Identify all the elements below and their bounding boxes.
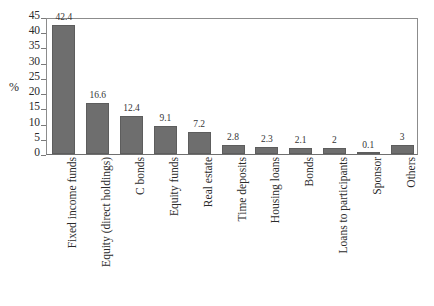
y-axis-tick-label: 30 <box>29 56 40 68</box>
x-axis-label: Sponsor <box>372 157 384 195</box>
bar <box>357 152 380 154</box>
plot-area: 42.416.612.49.17.22.82.32.120.13 <box>47 19 417 154</box>
bar-value-label: 2.8 <box>227 133 239 143</box>
x-axis-label-text: Equity (direct holdings) <box>101 157 113 267</box>
bar <box>255 147 278 154</box>
bar-group: 16.6 <box>86 17 109 154</box>
bar-value-label: 9.1 <box>159 114 171 124</box>
x-axis-label-text: C bonds <box>135 157 147 195</box>
x-axis-label: Fixed income funds <box>67 157 79 248</box>
x-axis-label-text: Sponsor <box>372 157 384 195</box>
y-axis-tick-label: 20 <box>29 86 40 98</box>
bar-value-label: 2 <box>332 136 337 146</box>
x-axis-label-text: Others <box>406 157 418 188</box>
x-axis-label: Bonds <box>304 157 316 186</box>
bar-value-label: 2.3 <box>261 135 273 145</box>
bar-group: 42.4 <box>52 17 75 154</box>
bar-group: 3 <box>391 17 414 154</box>
bar-value-label: 7.2 <box>193 120 205 130</box>
bar-group: 0.1 <box>357 17 380 154</box>
bar-value-label: 16.6 <box>89 91 106 101</box>
x-axis-label: Loans to participants <box>338 157 350 253</box>
y-axis-tick-label: 25 <box>29 71 40 83</box>
y-axis: 454035302520151050 <box>0 18 46 155</box>
x-axis-label-text: Loans to participants <box>338 157 350 253</box>
bar-value-label: 42.4 <box>56 13 73 23</box>
bar-group: 2 <box>323 17 346 154</box>
bar-value-label: 0.1 <box>362 141 374 151</box>
x-axis-category-labels: Fixed income fundsEquity (direct holding… <box>46 157 418 305</box>
x-axis-label-text: Equity funds <box>169 157 181 216</box>
x-axis-label-text: Real estate <box>203 157 215 207</box>
bar-value-label: 12.4 <box>123 104 140 114</box>
bar-group: 2.1 <box>289 17 312 154</box>
y-axis-tick-mark <box>41 155 46 156</box>
x-axis-label: Others <box>406 157 418 188</box>
y-axis-tick-label: 0 <box>34 147 40 159</box>
bar <box>154 126 177 154</box>
bar <box>391 145 414 154</box>
bar <box>323 148 346 154</box>
x-axis-label: C bonds <box>135 157 147 195</box>
bar <box>188 132 211 154</box>
bar-value-label: 3 <box>400 133 405 143</box>
y-axis-tick-label: 10 <box>29 117 40 129</box>
bar <box>222 145 245 154</box>
bar <box>289 148 312 154</box>
x-axis-label: Equity funds <box>169 157 181 216</box>
bar-value-label: 2.1 <box>295 136 307 146</box>
x-axis-label: Equity (direct holdings) <box>101 157 113 267</box>
x-axis-label: Time deposits <box>237 157 249 221</box>
x-axis-label-text: Fixed income funds <box>67 157 79 248</box>
bar-group: 7.2 <box>188 17 211 154</box>
x-axis-label: Real estate <box>203 157 215 207</box>
x-axis-label-text: Bonds <box>304 157 316 186</box>
bar-group: 2.8 <box>222 17 245 154</box>
y-axis-tick-label: 40 <box>29 25 40 37</box>
plot-frame: 42.416.612.49.17.22.82.32.120.13 <box>46 18 418 155</box>
bar-chart-figure: % 454035302520151050 42.416.612.49.17.22… <box>0 0 434 306</box>
bar-group: 12.4 <box>120 17 143 154</box>
bar <box>52 25 75 154</box>
x-axis-label-text: Housing loans <box>270 157 282 223</box>
y-axis-tick-label: 35 <box>29 40 40 52</box>
bar-group: 2.3 <box>255 17 278 154</box>
y-axis-tick-label: 5 <box>34 132 40 144</box>
bar <box>86 103 109 154</box>
y-axis-tick-label: 15 <box>29 101 40 113</box>
bar-group: 9.1 <box>154 17 177 154</box>
y-axis-tick-label: 45 <box>29 10 40 22</box>
bar <box>120 116 143 154</box>
x-axis-label: Housing loans <box>270 157 282 223</box>
x-axis-label-text: Time deposits <box>237 157 249 221</box>
